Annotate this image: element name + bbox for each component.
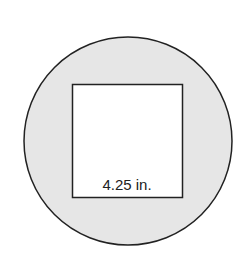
side-length-label: 4.25 in.: [102, 176, 151, 193]
diagram: 4.25 in.: [0, 0, 244, 268]
